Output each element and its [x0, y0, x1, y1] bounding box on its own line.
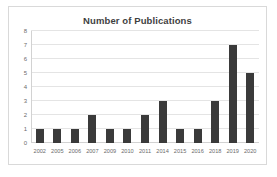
- y-axis-tick-label: 1: [24, 126, 27, 132]
- bar-slot: 2020: [241, 31, 259, 143]
- bar-slot: 2010: [119, 31, 137, 143]
- x-axis-tick-label: 2015: [174, 148, 186, 154]
- bar: [123, 129, 131, 143]
- bar: [246, 73, 254, 143]
- x-axis-tick-label: 2019: [226, 148, 238, 154]
- chart-frame: Number of Publications 012345678 2002200…: [8, 6, 267, 165]
- bar: [141, 115, 149, 143]
- bar: [159, 101, 167, 143]
- x-axis-tick-label: 2005: [51, 148, 63, 154]
- bar: [194, 129, 202, 143]
- x-axis-tick-label: 2010: [121, 148, 133, 154]
- x-axis-tick-label: 2014: [156, 148, 168, 154]
- y-axis-tick-label: 3: [24, 98, 27, 104]
- x-axis-tick-label: 2018: [209, 148, 221, 154]
- x-axis-tick-label: 2009: [104, 148, 116, 154]
- x-axis-tick-label: 2020: [244, 148, 256, 154]
- bar: [211, 101, 219, 143]
- y-axis-tick-label: 0: [24, 140, 27, 146]
- bar: [36, 129, 44, 143]
- x-axis-tick-label: 2016: [191, 148, 203, 154]
- y-axis-tick-label: 2: [24, 112, 27, 118]
- bar-slot: 2006: [66, 31, 84, 143]
- bar: [71, 129, 79, 143]
- x-axis-tick-label: 2007: [86, 148, 98, 154]
- x-axis-tick-label: 2006: [69, 148, 81, 154]
- plot-area: 012345678 200220052006200720092010201120…: [31, 31, 259, 143]
- bar-slot: 2016: [189, 31, 207, 143]
- bar-slot: 2018: [206, 31, 224, 143]
- y-axis-tick-label: 5: [24, 70, 27, 76]
- bar-slot: 2015: [171, 31, 189, 143]
- y-axis-tick-label: 6: [24, 56, 27, 62]
- bar: [106, 129, 114, 143]
- x-axis-tick-label: 2002: [34, 148, 46, 154]
- bar-slot: 2005: [49, 31, 67, 143]
- bar-slot: 2007: [84, 31, 102, 143]
- bar: [88, 115, 96, 143]
- bar-slot: 2011: [136, 31, 154, 143]
- bar-slot: 2002: [31, 31, 49, 143]
- chart-title: Number of Publications: [9, 15, 266, 26]
- x-axis-tick-label: 2011: [139, 148, 151, 154]
- bar-slot: 2014: [154, 31, 172, 143]
- y-axis-tick-label: 7: [24, 42, 27, 48]
- bar-series: 2002200520062007200920102011201420152016…: [31, 31, 259, 143]
- bar-slot: 2009: [101, 31, 119, 143]
- bar: [229, 45, 237, 143]
- bar-slot: 2019: [224, 31, 242, 143]
- bar: [176, 129, 184, 143]
- bar: [53, 129, 61, 143]
- y-axis-tick-label: 8: [24, 28, 27, 34]
- y-axis-tick-label: 4: [24, 84, 27, 90]
